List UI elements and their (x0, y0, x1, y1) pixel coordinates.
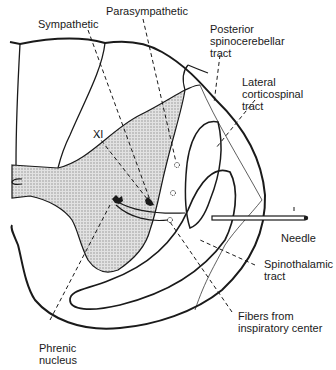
label-parasympathetic: Parasympathetic (106, 5, 188, 17)
label-needle: Needle (281, 232, 316, 244)
gray-matter (12, 90, 185, 272)
label-fibers-inspiratory-center: Fibers from inspiratory center (238, 310, 322, 334)
dentate-line (195, 85, 262, 310)
label-posterior-spinocerebellar-tract: Posterior spinocerebellar tract (210, 23, 285, 59)
label-phrenic-nucleus: Phrenic nucleus (39, 342, 77, 366)
spinal-cord-diagram: Sympathetic Parasympathetic Posterior sp… (0, 0, 336, 370)
needle (212, 216, 308, 220)
label-lateral-corticospinal-tract: Lateral corticospinal tract (242, 76, 303, 112)
label-xi: XI (93, 128, 103, 140)
lateral-corticospinal-region (185, 122, 221, 228)
label-sympathetic: Sympathetic (38, 18, 99, 30)
label-spinothalamic-tract: Spinothalamic tract (264, 258, 333, 282)
